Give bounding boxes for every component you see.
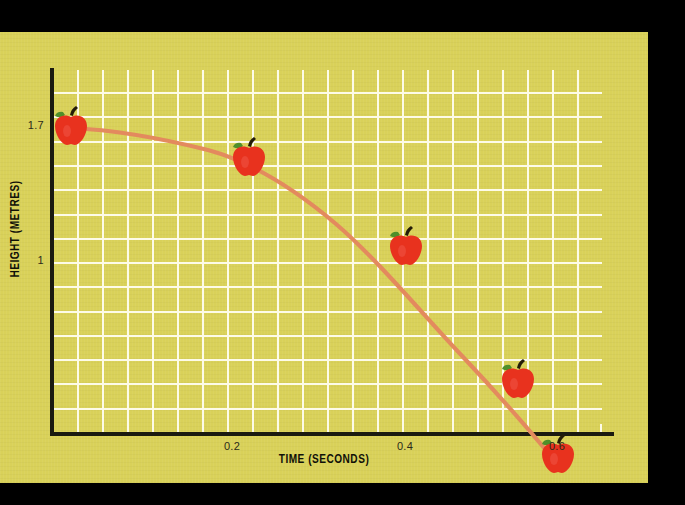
x-minor-tick xyxy=(352,424,354,432)
x-minor-tick xyxy=(600,424,602,432)
x-minor-tick xyxy=(327,424,329,432)
x-minor-tick xyxy=(477,424,479,432)
y-tick-label-group: 1.7 1 xyxy=(0,32,44,483)
x-tick-label: 0.2 xyxy=(224,440,240,452)
x-minor-tick xyxy=(152,424,154,432)
x-minor-tick xyxy=(552,424,554,432)
x-minor-tick xyxy=(577,424,579,432)
x-minor-tick xyxy=(202,424,204,432)
x-minor-tick xyxy=(177,424,179,432)
x-axis-title: TIME (SECONDS) xyxy=(52,452,596,466)
x-minor-tick xyxy=(452,424,454,432)
x-minor-tick xyxy=(402,424,404,432)
y-tick-label: 1 xyxy=(38,254,44,266)
x-minor-tick xyxy=(127,424,129,432)
x-minor-tick xyxy=(77,424,79,432)
x-minor-tick xyxy=(377,424,379,432)
x-minor-tick xyxy=(277,424,279,432)
y-axis-title: HEIGHT (METRES) xyxy=(8,170,22,288)
x-minor-tick xyxy=(102,424,104,432)
plot-area-grid xyxy=(52,70,602,434)
chart-screenshot: 1.7 1 0.2 0.4 0.6 TIME (SECONDS) HEIGHT … xyxy=(0,0,685,505)
x-minor-tick xyxy=(527,424,529,432)
x-minor-tick xyxy=(427,424,429,432)
x-minor-tick xyxy=(252,424,254,432)
x-axis-line xyxy=(50,432,614,436)
y-tick-label: 1.7 xyxy=(28,119,44,131)
x-minor-tick xyxy=(502,424,504,432)
x-minor-tick xyxy=(227,424,229,432)
y-axis-line xyxy=(50,68,54,436)
x-tick-label: 0.6 xyxy=(549,440,565,452)
chart-panel: 1.7 1 0.2 0.4 0.6 TIME (SECONDS) HEIGHT … xyxy=(0,32,648,483)
x-minor-tick xyxy=(302,424,304,432)
x-tick-label: 0.4 xyxy=(397,440,413,452)
